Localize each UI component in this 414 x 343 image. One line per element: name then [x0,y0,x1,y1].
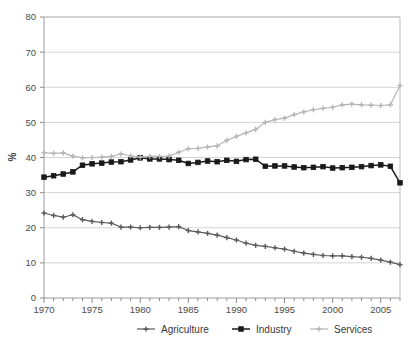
data-point-marker [311,165,316,170]
y-tick-label: 70 [25,47,36,58]
x-tick-label: 1970 [33,304,54,315]
data-point-marker [90,162,95,167]
data-point-marker [176,158,181,163]
chart-container: 01020304050607080 1970197519801985199019… [0,0,414,343]
y-tick-label: 40 [25,152,36,163]
x-tick-label: 1985 [178,304,199,315]
data-point-marker [215,159,220,164]
y-tick-label: 30 [25,187,36,198]
data-point-marker [244,157,249,162]
data-point-marker [316,326,321,331]
x-tick-label: 1975 [82,304,103,315]
data-point-marker [301,165,306,170]
data-point-marker [234,159,239,164]
legend-item-agriculture[interactable]: Agriculture [137,324,209,335]
data-point-marker [239,327,244,332]
data-point-marker [273,164,278,169]
y-axis-ticks [40,17,44,298]
y-tick-label: 60 [25,82,36,93]
data-point-marker [378,163,383,168]
data-point-marker [109,160,114,165]
y-axis-label: % [7,152,18,161]
data-point-marker [225,158,230,163]
data-point-marker [263,164,268,169]
line-chart: 01020304050607080 1970197519801985199019… [0,0,414,343]
data-point-marker [42,175,47,180]
data-point-marker [330,166,335,171]
y-tick-label: 80 [25,11,36,22]
chart-legend: AgricultureIndustryServices [137,324,372,335]
data-point-marker [340,165,345,170]
x-tick-label: 1995 [274,304,295,315]
data-point-marker [80,163,85,168]
data-point-marker [143,326,148,331]
data-point-marker [99,161,104,166]
y-tick-label: 50 [25,117,36,128]
data-point-marker [282,164,287,169]
data-point-marker [196,160,201,165]
data-point-marker [398,180,403,185]
y-tick-label: 20 [25,222,36,233]
y-tick-label: 0 [31,292,36,303]
data-point-marker [71,170,76,175]
y-axis-tick-labels: 01020304050607080 [25,11,36,303]
data-point-marker [321,164,326,169]
x-axis-ticks [44,298,400,303]
y-tick-label: 10 [25,257,36,268]
data-point-marker [51,173,56,178]
data-point-marker [128,158,133,163]
x-tick-label: 2000 [322,304,343,315]
x-axis-tick-labels: 19701975198019851990199520002005 [33,304,391,315]
data-point-marker [388,164,393,169]
legend-item-industry[interactable]: Industry [232,324,292,335]
data-point-marker [186,161,191,166]
data-point-marker [205,159,210,164]
data-point-marker [292,165,297,170]
legend-label: Services [334,324,372,335]
x-tick-label: 1990 [226,304,247,315]
legend-item-services[interactable]: Services [310,324,372,335]
data-point-marker [253,157,258,162]
data-point-marker [350,165,355,170]
data-point-marker [61,172,66,177]
legend-label: Industry [256,324,292,335]
x-tick-label: 2005 [370,304,391,315]
data-point-marker [119,159,124,164]
data-point-marker [369,163,374,168]
x-tick-label: 1980 [130,304,151,315]
data-point-marker [359,164,364,169]
legend-label: Agriculture [161,324,209,335]
